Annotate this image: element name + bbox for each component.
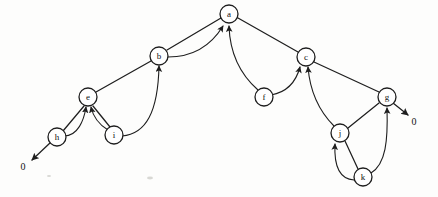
edge-k-to-g [371,108,387,173]
node-j[interactable]: j [331,124,349,142]
edge-c-to-g [314,62,379,92]
edge-j-to-k [345,141,358,169]
edge-k-to-j [335,144,354,180]
node-label-j: j [338,128,342,138]
node-c[interactable]: c [297,48,315,66]
edge-j-to-c [308,67,334,126]
edge-h-to-e [64,107,86,136]
null-pointer-label-null-left: 0 [21,161,26,172]
node-label-h: h [55,132,60,142]
edge-a-to-c [238,18,298,52]
node-label-a: a [227,9,231,19]
graph-canvas: abcefghijk 00 [0,0,438,197]
node-label-c: c [304,52,308,62]
edge-i-to-e [91,107,108,130]
edge-b-to-a [167,18,221,50]
edge-i-to-b [122,66,159,136]
graph-figure: abcefghijk 00 [0,0,438,197]
node-i[interactable]: i [105,126,123,144]
node-k[interactable]: k [354,168,372,186]
node-label-f: f [263,92,266,102]
edge-h-to-e [63,106,84,131]
node-f[interactable]: f [255,88,273,106]
edge-g-to-j [348,103,379,128]
null-pointer-label-null-right: 0 [412,116,417,127]
edge-e-to-b [96,61,151,92]
edge-f-to-a [229,26,258,90]
node-h[interactable]: h [48,128,66,146]
nodes-layer: abcefghijk [48,5,396,186]
node-a[interactable]: a [220,5,238,23]
edge-g-to-null-right [393,103,408,115]
edge-f-to-c [271,67,300,95]
node-label-b: b [157,51,162,61]
edge-h-to-null-left [32,142,51,160]
node-g[interactable]: g [378,88,396,106]
edge-b-to-a [168,26,223,57]
node-label-e: e [86,92,90,102]
edge-e-to-i [93,106,110,127]
node-label-k: k [361,172,366,182]
paper-speck [47,175,51,177]
node-e[interactable]: e [79,88,97,106]
node-label-g: g [385,92,390,102]
paper-speck [147,177,153,180]
node-b[interactable]: b [150,47,168,65]
